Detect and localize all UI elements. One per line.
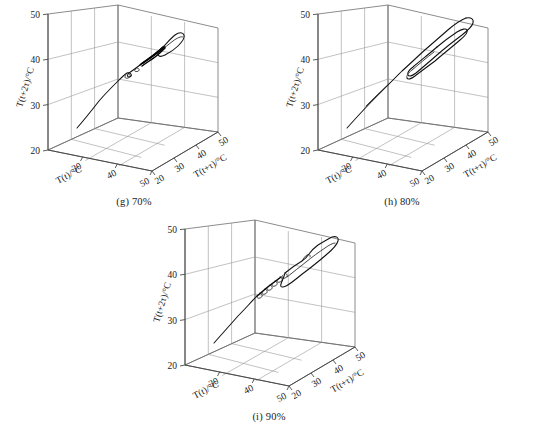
z-ticklabel-50: 50 xyxy=(31,10,41,20)
trajectory-loop-h2 xyxy=(407,29,467,79)
grid-left-h1 xyxy=(318,79,388,105)
z-tick-40 xyxy=(43,59,48,60)
z-tick-30 xyxy=(313,105,318,106)
x-tick-50 xyxy=(150,171,152,175)
grid-floor-a2 xyxy=(365,129,435,146)
grid-right-h1 xyxy=(255,294,355,312)
trajectory-upper-loop-i xyxy=(281,237,338,287)
x-axis-title: T(t)/°C xyxy=(54,164,83,187)
y-tick-20 xyxy=(422,171,425,175)
y-ticklabel-30: 30 xyxy=(310,376,324,390)
panel-g-plot: 20 30 40 50 T(t+2τ)/°C 30 40 50 T(t)/°C … xyxy=(0,0,268,200)
z-ticklabel-30: 30 xyxy=(168,316,178,326)
trajectory-loop-h1 xyxy=(408,18,473,76)
y-ticklabel-50: 50 xyxy=(487,135,501,149)
x-axis xyxy=(318,150,422,171)
grid-right-h1 xyxy=(388,79,488,97)
y-tick-50 xyxy=(355,347,358,351)
x-tick-40 xyxy=(385,164,387,168)
z-ticklabel-30: 30 xyxy=(31,101,41,111)
x-ticklabel-40: 40 xyxy=(375,168,388,181)
trajectory-lower-i xyxy=(214,296,257,343)
x-axis-title: T(t)/°C xyxy=(191,379,220,402)
x-tick-30 xyxy=(351,157,353,161)
panel-h: 20 30 40 50 T(t+2τ)/°C 30 40 50 T(t)/°C … xyxy=(268,0,536,200)
z-tick-20 xyxy=(313,150,318,151)
trajectory-lower-g xyxy=(77,65,140,128)
y-tick-40 xyxy=(333,360,336,364)
x-tick-40 xyxy=(115,164,117,168)
z-ticklabel-20: 20 xyxy=(301,146,311,156)
x-tick-30 xyxy=(81,157,83,161)
y-tick-30 xyxy=(444,158,447,162)
grid-right-h2 xyxy=(388,42,488,63)
grid-floor-b2 xyxy=(256,342,322,381)
y-tick-20 xyxy=(152,171,155,175)
x-tick-30 xyxy=(218,372,220,376)
y-tick-30 xyxy=(174,158,177,162)
panel-h-plot: 20 30 40 50 T(t+2τ)/°C 30 40 50 T(t)/°C … xyxy=(268,0,536,200)
x-ticklabel-40: 40 xyxy=(105,168,118,181)
z-ticklabel-40: 40 xyxy=(168,270,178,280)
figure-root: 20 30 40 50 T(t+2τ)/°C 30 40 50 T(t)/°C … xyxy=(0,0,538,427)
grid-left-h2 xyxy=(48,42,118,59)
x-tick-50 xyxy=(287,386,289,390)
grid-left-h2 xyxy=(318,42,388,59)
z-tick-50 xyxy=(180,229,185,230)
trajectory-tail-h xyxy=(366,73,400,106)
grid-floor-b2 xyxy=(119,127,185,166)
grid-right-h2 xyxy=(255,257,355,278)
x-axis xyxy=(185,365,289,386)
x-ticklabel-50: 50 xyxy=(138,176,151,189)
z-ticklabel-20: 20 xyxy=(31,146,41,156)
z-tick-50 xyxy=(43,14,48,15)
z-ticklabel-50: 50 xyxy=(301,10,311,20)
y-tick-30 xyxy=(311,373,314,377)
back-left-wall xyxy=(185,220,255,365)
y-ticklabel-50: 50 xyxy=(354,350,368,364)
grid-floor-b2 xyxy=(389,127,455,166)
x-ticklabel-50: 50 xyxy=(275,391,288,404)
y-tick-40 xyxy=(466,145,469,149)
x-axis-title: T(t)/°C xyxy=(324,164,353,187)
panel-h-caption: (h) 80% xyxy=(268,196,536,207)
y-tick-50 xyxy=(218,132,221,136)
panel-g-caption: (g) 70% xyxy=(0,196,268,207)
back-left-wall xyxy=(48,5,118,150)
z-ticklabel-40: 40 xyxy=(31,55,41,65)
z-tick-40 xyxy=(180,274,185,275)
panel-i: 20 30 40 50 T(t+2τ)/°C 30 40 50 T(t)/°C … xyxy=(135,215,403,415)
grid-floor-a2 xyxy=(232,344,302,361)
z-tick-20 xyxy=(43,150,48,151)
y-ticklabel-50: 50 xyxy=(217,135,231,149)
grid-left-h1 xyxy=(185,294,255,320)
z-tick-50 xyxy=(313,14,318,15)
y-tick-20 xyxy=(289,386,292,390)
z-ticklabel-50: 50 xyxy=(168,225,178,235)
z-tick-30 xyxy=(43,105,48,106)
y-ticklabel-40: 40 xyxy=(332,363,346,377)
x-axis xyxy=(48,150,152,171)
y-ticklabel-40: 40 xyxy=(465,148,479,162)
y-tick-50 xyxy=(488,132,491,136)
z-tick-20 xyxy=(180,365,185,366)
grid-left-h2 xyxy=(185,257,255,274)
back-left-wall xyxy=(318,5,388,150)
z-tick-30 xyxy=(180,320,185,321)
y-ticklabel-40: 40 xyxy=(195,148,209,162)
x-ticklabel-40: 40 xyxy=(242,383,255,396)
back-right-wall xyxy=(255,220,355,347)
z-ticklabel-40: 40 xyxy=(301,55,311,65)
grid-right-h1 xyxy=(118,79,218,97)
x-ticklabel-50: 50 xyxy=(408,176,421,189)
z-ticklabel-30: 30 xyxy=(301,101,311,111)
back-right-wall xyxy=(118,5,218,132)
panel-g: 20 30 40 50 T(t+2τ)/°C 30 40 50 T(t)/°C … xyxy=(0,0,268,200)
z-tick-40 xyxy=(313,59,318,60)
x-tick-40 xyxy=(252,379,254,383)
z-ticklabel-20: 20 xyxy=(168,361,178,371)
grid-floor-a2 xyxy=(95,129,165,146)
x-tick-50 xyxy=(420,171,422,175)
y-ticklabel-30: 30 xyxy=(443,161,457,175)
panel-i-caption: (i) 90% xyxy=(135,411,403,422)
